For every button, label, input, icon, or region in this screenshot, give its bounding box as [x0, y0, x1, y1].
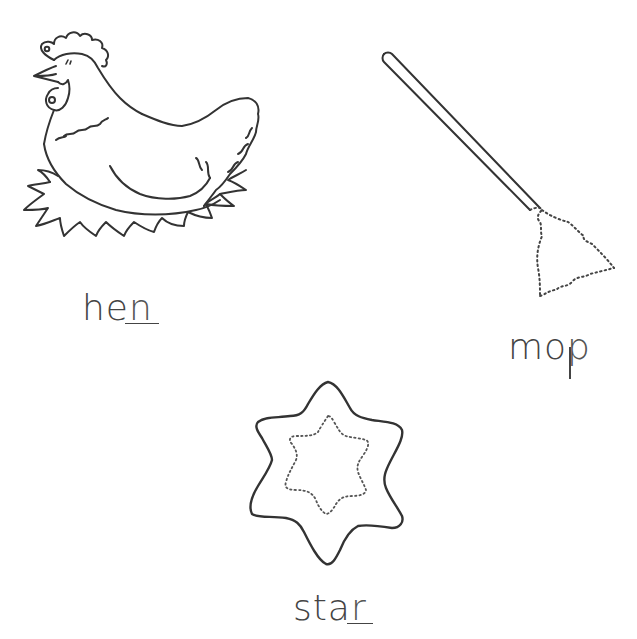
word-stem: he [82, 290, 129, 326]
traced-letter: n [129, 290, 153, 326]
mop-icon [370, 40, 630, 320]
word-hen: hen [82, 290, 153, 326]
star-icon [240, 370, 420, 570]
traced-letter: p [567, 329, 591, 365]
word-stem: mo [508, 329, 567, 365]
hen-on-nest-icon [20, 20, 280, 270]
word-stem: sta [293, 590, 351, 626]
word-star: star [293, 590, 367, 626]
traced-letter-stroke [569, 347, 571, 379]
traced-letter: r [351, 590, 367, 626]
word-mop: mop [508, 329, 591, 365]
